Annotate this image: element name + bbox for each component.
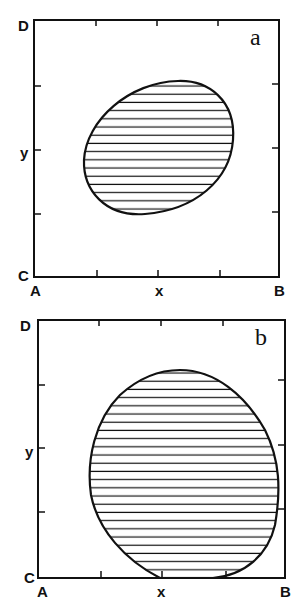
corner-label-d: D [20,317,31,334]
panel-label-b: b [255,324,267,350]
corner-label-c: C [18,267,29,284]
figure: D C A B x y a D C A B x y b [0,0,307,608]
corner-label-b: B [280,583,291,600]
x-axis-label: x [157,583,166,600]
hatched-region-a [80,76,240,221]
corner-label-b: B [274,282,285,299]
corner-label-d: D [18,17,29,34]
panel-a: D C A B x y a [18,17,285,299]
x-axis-label: x [155,282,164,299]
y-axis-label: y [25,443,34,460]
y-axis-label: y [20,144,29,161]
corner-label-a: A [37,583,48,600]
panel-b: D C A B x y b [20,317,291,600]
corner-label-c: C [24,569,35,586]
panel-label-a: a [250,24,261,50]
corner-label-a: A [30,282,41,299]
